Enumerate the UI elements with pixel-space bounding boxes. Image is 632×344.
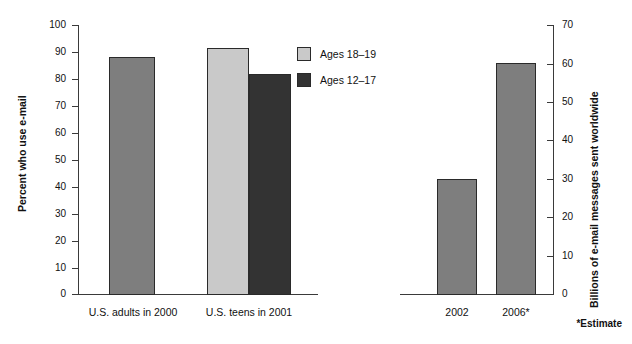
left-category-label-us-teens-2001: U.S. teens in 2001 bbox=[188, 306, 310, 318]
footnote-estimate: *Estimate bbox=[576, 318, 622, 329]
left-tick-30 bbox=[72, 214, 78, 215]
legend-swatch-light-icon bbox=[297, 47, 311, 61]
bar-us-teens-2001-ages-12-17 bbox=[249, 74, 291, 295]
right-axis-title: Billions of e-mail messages sent worldwi… bbox=[588, 92, 600, 308]
chart-figure: 100 90 80 70 60 50 40 30 20 10 0 Percent… bbox=[0, 0, 632, 344]
left-tick-60 bbox=[72, 133, 78, 134]
left-tick-label-30: 30 bbox=[38, 209, 66, 219]
right-tick-30 bbox=[547, 179, 553, 180]
right-tick-label-30: 30 bbox=[562, 174, 590, 184]
left-tick-label-40: 40 bbox=[38, 182, 66, 192]
right-tick-50 bbox=[547, 102, 553, 103]
left-y-axis-line bbox=[78, 25, 79, 295]
right-tick-10 bbox=[547, 256, 553, 257]
left-tick-label-100: 100 bbox=[38, 20, 66, 30]
left-tick-label-20: 20 bbox=[38, 236, 66, 246]
left-tick-100 bbox=[72, 25, 78, 26]
right-tick-label-50: 50 bbox=[562, 97, 590, 107]
left-tick-40 bbox=[72, 187, 78, 188]
right-category-label-2006: 2006* bbox=[481, 306, 551, 318]
left-tick-10 bbox=[72, 268, 78, 269]
left-tick-label-0: 0 bbox=[38, 289, 66, 299]
right-tick-label-40: 40 bbox=[562, 135, 590, 145]
right-tick-0 bbox=[547, 294, 553, 295]
left-tick-20 bbox=[72, 241, 78, 242]
left-category-label-us-adults-2000: U.S. adults in 2000 bbox=[72, 306, 194, 318]
left-tick-label-60: 60 bbox=[38, 128, 66, 138]
bar-2006-estimate bbox=[496, 63, 536, 295]
bar-us-adults-2000 bbox=[109, 57, 155, 295]
right-tick-label-60: 60 bbox=[562, 59, 590, 69]
right-tick-20 bbox=[547, 217, 553, 218]
right-y-axis-line bbox=[553, 25, 554, 295]
right-tick-label-0: 0 bbox=[562, 289, 590, 299]
left-tick-label-70: 70 bbox=[38, 101, 66, 111]
left-tick-label-50: 50 bbox=[38, 155, 66, 165]
legend-swatch-dark-icon bbox=[297, 73, 311, 87]
right-tick-label-20: 20 bbox=[562, 212, 590, 222]
left-axis-title: Percent who use e-mail bbox=[16, 95, 28, 212]
left-tick-0 bbox=[72, 294, 78, 295]
right-tick-40 bbox=[547, 140, 553, 141]
bar-2002 bbox=[437, 179, 477, 295]
left-tick-80 bbox=[72, 79, 78, 80]
left-tick-label-90: 90 bbox=[38, 47, 66, 57]
left-tick-label-10: 10 bbox=[38, 263, 66, 273]
legend-item-ages-18-19: Ages 18–19 bbox=[297, 44, 376, 64]
legend-label-ages-18-19: Ages 18–19 bbox=[320, 48, 376, 60]
right-tick-70 bbox=[547, 25, 553, 26]
right-tick-label-70: 70 bbox=[562, 20, 590, 30]
left-tick-50 bbox=[72, 160, 78, 161]
legend-label-ages-12-17: Ages 12–17 bbox=[320, 74, 376, 86]
right-tick-label-10: 10 bbox=[562, 251, 590, 261]
left-tick-90 bbox=[72, 52, 78, 53]
right-tick-60 bbox=[547, 64, 553, 65]
left-tick-label-80: 80 bbox=[38, 74, 66, 84]
legend: Ages 18–19 Ages 12–17 bbox=[297, 44, 376, 96]
legend-item-ages-12-17: Ages 12–17 bbox=[297, 70, 376, 90]
bar-us-teens-2001-ages-18-19 bbox=[207, 48, 249, 295]
left-tick-70 bbox=[72, 106, 78, 107]
